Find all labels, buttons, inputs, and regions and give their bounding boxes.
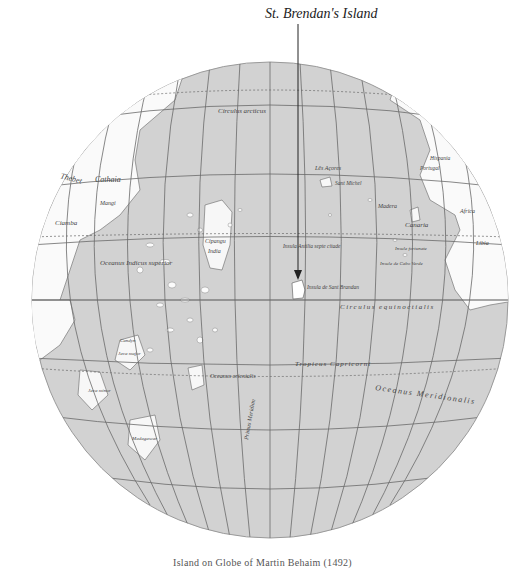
label-circulus-arcticus: Circulus arcticus [218, 107, 266, 115]
label-cipangu: Cipangu [205, 238, 226, 244]
globe-map: Circulus arcticus Circulus equinoctialis… [0, 0, 525, 569]
label-insule-fortunate: Insule fortunate [394, 246, 428, 251]
label-tropicus-capricorni: Tropicus Capricorni [295, 360, 371, 368]
label-mangi: Mangi [99, 200, 116, 206]
label-india: India [207, 248, 221, 254]
label-java-major: Java major [118, 351, 141, 356]
label-antilia: Insula Antilia septe citade [282, 243, 341, 249]
label-canaria: Canaria [405, 221, 429, 229]
label-cathaia: Cathaia [95, 175, 121, 184]
label-circulus-equinoctialis: Circulus equinoctialis [340, 303, 435, 311]
label-portugal: Portugal [419, 165, 440, 171]
label-candyn: Candyn [120, 338, 136, 343]
label-africa: Africa [459, 208, 475, 214]
label-hispania: Hispania [429, 155, 450, 161]
label-oceanus-orientalis: Oceanus orientalis [210, 373, 256, 379]
label-madagascar: Madagascar [131, 436, 157, 441]
label-sant-michel: Sant Michel [335, 180, 362, 186]
label-java-minor: Java minor [88, 388, 111, 393]
label-oceanus-indicus: Oceanus Indicus superior [100, 259, 173, 267]
label-cabo-verde: Insule de Cabo Verde [379, 261, 424, 266]
label-sant-brandan: Insula de Sant Brandan [306, 284, 359, 290]
label-ciamba: Ciamba [55, 219, 78, 227]
label-les-acores: Lês Açores [314, 165, 342, 171]
label-libia: Libia [475, 240, 489, 246]
map-caption: Island on Globe of Martin Behaim (1492) [0, 557, 525, 568]
label-madera: Madera [377, 203, 397, 209]
sant-brandan-island [292, 280, 305, 299]
